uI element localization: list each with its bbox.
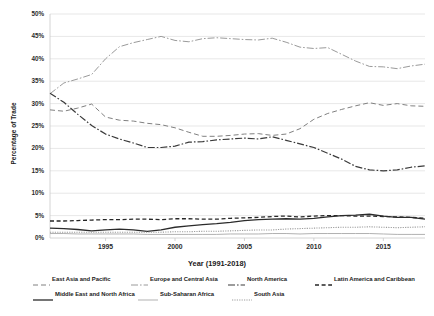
- legend-line-swatch: [33, 275, 50, 283]
- legend-label: Europe and Central Asia: [150, 276, 218, 282]
- legend-line-swatch: [228, 275, 245, 283]
- legend-item[interactable]: East Asia and Pacific: [33, 272, 111, 286]
- legend-item[interactable]: South Asia: [232, 287, 284, 301]
- legend-item[interactable]: Latin America and Caribbean: [315, 272, 415, 286]
- series-line: [50, 234, 425, 235]
- plot-area: [0, 0, 434, 316]
- legend-line-swatch: [232, 290, 252, 298]
- series-line: [50, 216, 425, 221]
- series-line: [50, 93, 425, 171]
- legend-label: Middle East and North Africa: [55, 291, 135, 297]
- legend-line-swatch: [138, 290, 158, 298]
- series-line: [50, 103, 425, 137]
- legend-item[interactable]: Europe and Central Asia: [131, 272, 218, 286]
- series-line: [50, 36, 425, 93]
- legend-item[interactable]: North America: [228, 272, 287, 286]
- legend-row: Middle East and North AfricaSub-Saharan …: [0, 287, 434, 301]
- legend-label: North America: [247, 276, 287, 282]
- legend-label: East Asia and Pacific: [52, 276, 111, 282]
- legend-line-swatch: [131, 275, 148, 283]
- legend-label: Latin America and Caribbean: [334, 276, 415, 282]
- legend-line-swatch: [315, 275, 332, 283]
- legend-line-swatch: [33, 290, 53, 298]
- legend-label: South Asia: [254, 291, 284, 297]
- legend-item[interactable]: Sub-Saharan Africa: [138, 287, 214, 301]
- series-line: [50, 214, 425, 231]
- legend-label: Sub-Saharan Africa: [160, 291, 214, 297]
- legend-row: East Asia and PacificEurope and Central …: [0, 272, 434, 286]
- line-chart: Percentage of Trade Year (1991-2018) 0%5…: [0, 0, 434, 316]
- legend-item[interactable]: Middle East and North Africa: [33, 287, 135, 301]
